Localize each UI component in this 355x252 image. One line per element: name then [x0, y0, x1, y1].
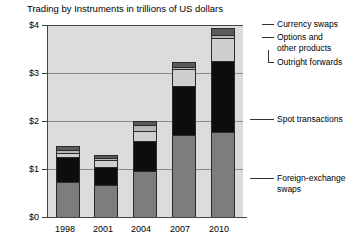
bar-segment-1998-foreign-exchange-swaps	[56, 182, 80, 217]
y-tick-label-1: $1	[8, 165, 39, 174]
legend-label-spot-transactions: Spot transactions	[277, 114, 343, 125]
bar-1998	[56, 146, 80, 217]
legend-label-options: Options and	[277, 32, 323, 43]
bar-segment-2004-outright-forwards	[133, 131, 157, 141]
chart-title: Trading by Instruments in trillions of U…	[0, 3, 250, 15]
bar-chart: Trading by Instruments in trillions of U…	[0, 0, 355, 252]
bar-segment-1998-spot-transactions	[56, 157, 80, 182]
y-tick-label-3: $3	[8, 69, 39, 78]
y-tick-label-0: $0	[8, 213, 39, 222]
bar-2004	[133, 121, 157, 217]
x-label-2010: 2010	[196, 224, 242, 234]
bar-segment-2001-spot-transactions	[94, 167, 118, 186]
legend-label-foreign-exchange: Foreign-exchange	[277, 173, 346, 184]
bar-segment-2004-foreign-exchange-swaps	[133, 171, 157, 217]
legend-label-swaps: swaps	[277, 184, 301, 195]
bar-segment-2001-foreign-exchange-swaps	[94, 185, 118, 217]
bar-2007	[172, 62, 196, 217]
bar-segment-2007-foreign-exchange-swaps	[172, 135, 196, 217]
bar-2001	[94, 155, 118, 217]
leader-options	[262, 37, 274, 38]
bar-segment-2007-spot-transactions	[172, 86, 196, 134]
bar-segment-2010-outright-forwards	[211, 38, 235, 61]
leader-outright-forwards-vertical	[268, 50, 269, 63]
bar-segment-2010-currency-swaps	[211, 28, 235, 35]
y-tick-label-2: $2	[8, 117, 39, 126]
leader-spot-transactions	[250, 119, 274, 120]
bar-segment-2004-spot-transactions	[133, 141, 157, 171]
leader-foreign-exchange-swaps	[250, 178, 274, 179]
legend-label-currency-swaps: Currency swaps	[277, 19, 338, 30]
plot-area	[47, 25, 243, 217]
legend-label-outright-forwards: Outright forwards	[277, 57, 342, 68]
bar-segment-2010-spot-transactions	[211, 61, 235, 133]
bar-segment-2010-foreign-exchange-swaps	[211, 132, 235, 217]
leader-currency-swaps	[262, 24, 274, 25]
y-tick-label-4: $4	[8, 21, 39, 30]
legend-label-other-products: other products	[277, 43, 331, 54]
bar-segment-2007-outright-forwards	[172, 69, 196, 86]
x-axis-line	[42, 217, 247, 218]
bar-2010	[211, 28, 235, 217]
